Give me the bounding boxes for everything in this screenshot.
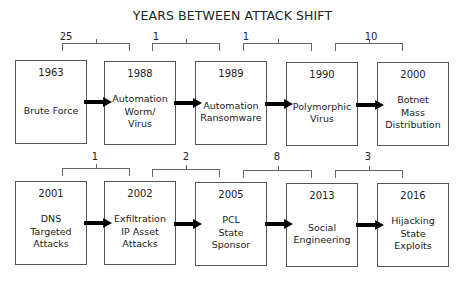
gap-bracket — [62, 43, 130, 51]
diagram-title: YEARS BETWEEN ATTACK SHIFT — [0, 8, 465, 23]
box-year: 2002 — [105, 188, 175, 199]
gap-label: 1 — [75, 151, 115, 162]
box-label: Brute Force — [16, 83, 86, 139]
timeline-box: 2002 Exfiltration IP Asset Attacks — [104, 181, 176, 265]
gap-bracket — [152, 43, 220, 51]
box-label: PCL State Sponsor — [196, 205, 266, 261]
gap-label: 1 — [226, 31, 266, 42]
box-year: 1989 — [196, 68, 266, 79]
gap-label: 25 — [46, 31, 86, 42]
arrow-right-icon — [356, 220, 384, 230]
timeline-box: 1989 Automation Ransomware — [195, 61, 267, 145]
arrow-right-icon — [174, 219, 202, 229]
arrow-right-icon — [84, 218, 112, 228]
box-label: Polymorphic Virus — [287, 85, 357, 141]
timeline-box: 2005 PCL State Sponsor — [195, 182, 267, 266]
gap-bracket — [335, 43, 403, 51]
box-year: 2001 — [16, 188, 86, 199]
gap-bracket — [335, 170, 403, 178]
timeline-box: 2013 Social Engineering — [286, 183, 358, 267]
timeline-box: 1963 Brute Force — [15, 60, 87, 144]
box-label: Hijacking State Exploits — [378, 206, 448, 262]
box-year: 1963 — [16, 67, 86, 78]
box-year: 2000 — [378, 69, 448, 80]
box-label: Exfiltration IP Asset Attacks — [105, 204, 175, 260]
arrow-right-icon — [174, 98, 202, 108]
box-year: 2013 — [287, 190, 357, 201]
timeline-box: 1990 Polymorphic Virus — [286, 62, 358, 146]
box-label: DNS Targeted Attacks — [16, 204, 86, 260]
timeline-box: 1988 Automation Worm/ Virus — [104, 61, 176, 145]
gap-label: 3 — [348, 151, 388, 162]
arrow-right-icon — [84, 97, 112, 107]
box-year: 1990 — [287, 69, 357, 80]
arrow-right-icon — [265, 99, 293, 109]
box-year: 2016 — [378, 190, 448, 201]
gap-bracket — [62, 168, 130, 176]
box-label: Automation Ransomware — [196, 84, 266, 140]
gap-label: 2 — [166, 151, 206, 162]
box-year: 2005 — [196, 189, 266, 200]
arrow-right-icon — [356, 100, 384, 110]
arrow-right-icon — [265, 219, 293, 229]
box-label: Social Engineering — [287, 206, 357, 262]
gap-label: 8 — [257, 151, 297, 162]
box-label: Automation Worm/ Virus — [105, 84, 175, 140]
box-year: 1988 — [105, 68, 175, 79]
timeline-box: 2001 DNS Targeted Attacks — [15, 181, 87, 265]
gap-label: 1 — [136, 31, 176, 42]
gap-bracket — [152, 169, 220, 177]
box-label: Botnet Mass Distribution — [378, 85, 448, 141]
gap-label: 10 — [351, 31, 391, 42]
timeline-box: 2016 Hijacking State Exploits — [377, 183, 449, 267]
timeline-box: 2000 Botnet Mass Distribution — [377, 62, 449, 146]
gap-bracket — [243, 43, 312, 51]
gap-bracket — [243, 170, 312, 178]
